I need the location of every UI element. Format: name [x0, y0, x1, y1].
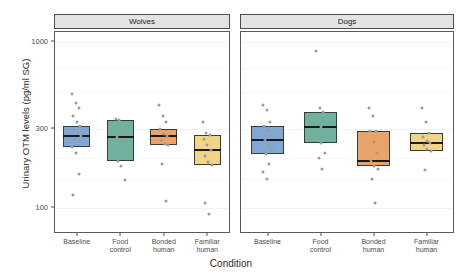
data-point: [316, 136, 319, 139]
data-point: [208, 134, 211, 137]
data-point: [116, 160, 119, 163]
data-point: [204, 201, 207, 204]
data-point: [207, 160, 210, 163]
data-point: [71, 145, 74, 148]
data-point: [421, 136, 424, 139]
data-point: [265, 177, 268, 180]
data-point: [429, 141, 432, 144]
box-median-line: [107, 136, 134, 138]
x-tick-mark: [320, 233, 321, 236]
x-tick-mark: [426, 233, 427, 236]
x-tick-label: Baseline: [246, 238, 290, 246]
y-axis: 1003001000: [14, 0, 54, 276]
data-point: [74, 101, 77, 104]
y-tick-label: 100: [14, 203, 48, 212]
data-point: [115, 136, 118, 139]
grid-line: [55, 42, 229, 43]
data-point: [424, 121, 427, 124]
data-point: [421, 107, 424, 110]
data-point: [321, 168, 324, 171]
data-point: [263, 138, 266, 141]
data-point: [319, 125, 322, 128]
grid-line-minor: [241, 68, 453, 69]
data-point: [322, 110, 325, 113]
data-point: [317, 157, 320, 160]
data-point: [72, 114, 75, 117]
data-point: [208, 213, 211, 216]
x-tick-mark: [163, 233, 164, 236]
chart-root: Urinary OTM levels (pg/ml SG) Condition …: [0, 0, 462, 276]
data-point: [369, 160, 372, 163]
y-tick-label: 1000: [14, 37, 48, 46]
data-point: [206, 144, 209, 147]
data-point: [210, 164, 213, 167]
data-point: [374, 201, 377, 204]
data-point: [368, 107, 371, 110]
y-tick-label: 300: [14, 123, 48, 132]
grid-line-minor: [241, 158, 453, 159]
data-point: [77, 141, 80, 144]
facet-strip-wolves: Wolves: [54, 14, 230, 29]
data-point: [269, 121, 272, 124]
data-point: [372, 141, 375, 144]
data-point: [205, 132, 208, 135]
x-tick-mark: [207, 233, 208, 236]
grid-line: [241, 208, 453, 209]
data-point: [120, 164, 123, 167]
data-point: [422, 144, 425, 147]
box-median-line: [357, 160, 390, 162]
facet-strip-label: Wolves: [129, 17, 155, 26]
data-point: [267, 144, 270, 147]
box-whisker: [163, 105, 164, 202]
data-point: [202, 138, 205, 141]
data-point: [423, 168, 426, 171]
grid-line: [241, 42, 453, 43]
data-point: [121, 127, 124, 130]
x-tick-label: Bonded human: [142, 238, 186, 254]
data-point: [78, 107, 81, 110]
x-tick-mark: [373, 233, 374, 236]
grid-line-minor: [55, 179, 229, 180]
data-point: [377, 168, 380, 171]
data-point: [78, 173, 81, 176]
data-point: [73, 127, 76, 130]
data-point: [158, 103, 161, 106]
data-point: [71, 92, 74, 95]
data-point: [166, 135, 169, 138]
data-point: [75, 121, 78, 124]
data-point: [368, 130, 371, 133]
data-point: [264, 153, 267, 156]
data-point: [114, 117, 117, 120]
grid-line-minor: [55, 68, 229, 69]
data-point: [262, 171, 265, 174]
data-point: [76, 131, 79, 134]
box-median-line: [251, 139, 284, 141]
grid-line: [55, 208, 229, 209]
grid-line-minor: [241, 92, 453, 93]
data-point: [163, 142, 166, 145]
facet-strip-dogs: Dogs: [240, 14, 454, 29]
data-point: [315, 50, 318, 53]
data-point: [118, 118, 121, 121]
data-point: [159, 127, 162, 130]
data-point: [201, 121, 204, 124]
data-point: [119, 141, 122, 144]
data-point: [79, 125, 82, 128]
data-point: [324, 152, 327, 155]
data-point: [123, 178, 126, 181]
facet-panel-wolves: Wolves: [54, 14, 230, 233]
x-tick-mark: [267, 233, 268, 236]
data-point: [73, 137, 76, 140]
data-point: [266, 129, 269, 132]
data-point: [425, 139, 428, 142]
data-point: [318, 107, 321, 110]
data-point: [376, 152, 379, 155]
plot-area-wolves: [54, 31, 230, 233]
x-tick-label: Food control: [98, 238, 142, 254]
data-point: [265, 109, 268, 112]
x-tick-label: Food control: [299, 238, 343, 254]
data-point: [165, 121, 168, 124]
data-point: [161, 114, 164, 117]
data-point: [371, 114, 374, 117]
grid-line-minor: [241, 179, 453, 180]
